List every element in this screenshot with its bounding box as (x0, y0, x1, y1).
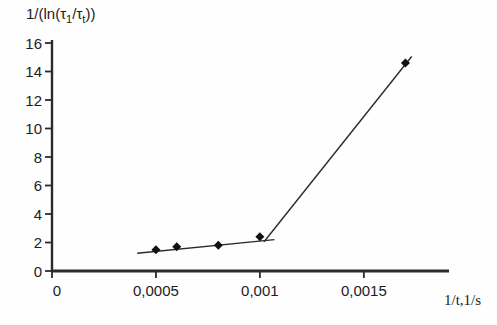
y-tick-label: 8 (34, 149, 42, 166)
y-tick-label: 16 (25, 35, 42, 52)
y-tick-label: 12 (25, 92, 42, 109)
chart-figure: 024681012141600,00050,0010,0015 1/(ln(τ1… (0, 0, 497, 325)
y-tick-label: 10 (25, 120, 42, 137)
trendline (264, 57, 412, 242)
x-axis-label: 1/t,1/s (444, 292, 481, 309)
y-tick-label: 6 (34, 177, 42, 194)
data-point (151, 245, 160, 254)
y-axis-label: 1/(ln(τ1/τt)) (26, 5, 95, 22)
y-tick-label: 2 (34, 234, 42, 251)
plot-svg: 024681012141600,00050,0010,0015 (0, 0, 497, 325)
x-tick-label: 0,0015 (341, 282, 387, 299)
y-tick-label: 14 (25, 63, 42, 80)
data-point (214, 241, 223, 250)
y-tick-label: 0 (34, 263, 42, 280)
x-tick-label: 0,0005 (133, 282, 179, 299)
data-point (255, 232, 264, 241)
x-tick-label: 0 (53, 282, 61, 299)
x-tick-label: 0,001 (241, 282, 279, 299)
y-tick-label: 4 (34, 206, 42, 223)
